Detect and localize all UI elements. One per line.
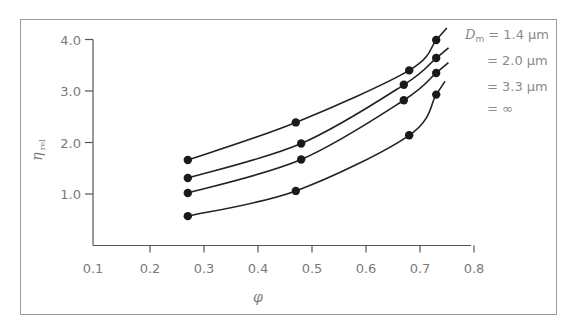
y-tick-label: 4.0 — [60, 33, 81, 48]
x-tick-label: 0.8 — [464, 261, 485, 276]
data-point — [432, 36, 440, 44]
x-tick-label: 0.5 — [302, 261, 323, 276]
legend: Dm= 1.4 μm = 2.0 μm = 3.3 μm = ∞ — [464, 27, 549, 116]
x-tick-label: 0.6 — [356, 261, 377, 276]
x-tick-label: 0.2 — [140, 261, 161, 276]
x-tick-label: 0.7 — [410, 261, 431, 276]
x-tick-label: 0.4 — [248, 261, 269, 276]
x-axis-title: φ — [253, 289, 263, 305]
y-tick-label: 2.0 — [60, 136, 81, 151]
y-tick-label: 3.0 — [60, 84, 81, 99]
data-point — [184, 189, 192, 197]
x-tick-label: 0.3 — [194, 261, 215, 276]
data-point — [297, 139, 305, 147]
legend-label-0: = 1.4 μm — [488, 27, 549, 42]
data-point — [184, 156, 192, 164]
data-point — [297, 155, 305, 163]
legend-item-2: = 3.3 μm — [487, 79, 548, 94]
data-point — [184, 174, 192, 182]
data-point — [405, 131, 413, 139]
data-point — [400, 96, 408, 104]
data-point — [292, 187, 300, 195]
legend-prefix: D — [464, 27, 476, 42]
legend-item-3: = ∞ — [487, 101, 513, 116]
data-point — [432, 54, 440, 62]
data-point — [432, 69, 440, 77]
data-point — [405, 66, 413, 74]
legend-item-1: = 2.0 μm — [487, 53, 548, 68]
data-markers — [184, 36, 441, 221]
chart: 1.02.03.04.00.10.20.30.40.50.60.70.8 φ η… — [0, 0, 578, 330]
legend-item-0: Dm= 1.4 μm — [464, 27, 549, 44]
y-axis-title: ηrel — [29, 139, 47, 161]
data-point — [184, 212, 192, 220]
legend-prefix-sub: m — [475, 34, 484, 44]
y-tick-label: 1.0 — [60, 187, 81, 202]
y-axis-title-main: η — [29, 152, 45, 161]
data-point — [292, 118, 300, 126]
y-axis-title-sub: rel — [38, 139, 47, 151]
data-point — [400, 81, 408, 89]
data-point — [432, 90, 440, 98]
series-curve-2 — [188, 63, 449, 193]
svg-text:ηrel: ηrel — [29, 139, 47, 161]
series-curve-0 — [188, 28, 447, 160]
x-tick-label: 0.1 — [83, 261, 104, 276]
curves — [188, 28, 449, 216]
